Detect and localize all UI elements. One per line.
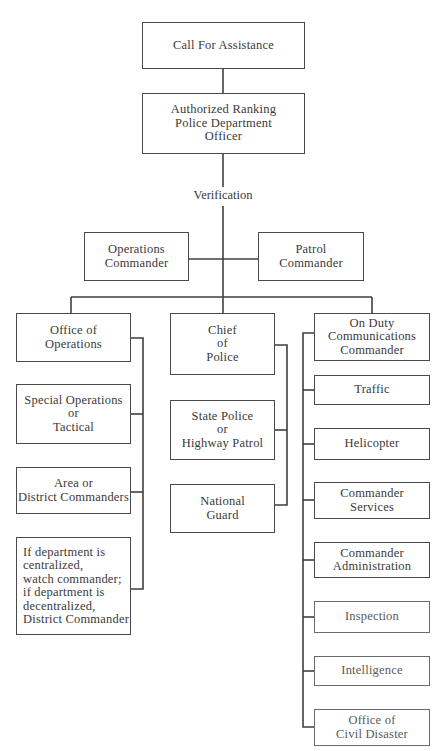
node-label: Patrol Commander — [279, 243, 343, 270]
node-label: Office of Operations — [45, 324, 102, 351]
node-label: Call For Assistance — [173, 39, 274, 53]
node-label: Operations Commander — [105, 243, 169, 270]
node-if-department: If department is centralized, watch comm… — [16, 537, 131, 635]
node-operations-commander: Operations Commander — [84, 232, 189, 281]
node-label: Intelligence — [341, 664, 402, 678]
node-office-of-operations: Office of Operations — [16, 313, 131, 362]
node-state-police: State Police or Highway Patrol — [170, 400, 275, 460]
node-label: Special Operations or Tactical — [24, 394, 122, 435]
node-label: Office of Civil Disaster — [336, 714, 408, 741]
node-label: National Guard — [200, 495, 245, 522]
node-label: Chief of Police — [206, 324, 238, 365]
node-label: Helicopter — [345, 437, 400, 451]
node-commander-administration: Commander Administration — [314, 542, 430, 578]
node-office-of-civil-disaster: Office of Civil Disaster — [314, 709, 430, 746]
node-label: Commander Services — [340, 487, 404, 514]
node-intelligence: Intelligence — [314, 656, 430, 686]
node-label: Authorized Ranking Police Department Off… — [171, 103, 276, 144]
node-chief-of-police: Chief of Police — [170, 313, 275, 375]
node-label: Commander Administration — [333, 547, 412, 574]
node-area-district-commanders: Area or District Commanders — [16, 467, 131, 514]
node-call-for-assistance: Call For Assistance — [142, 22, 305, 69]
node-patrol-commander: Patrol Commander — [258, 232, 364, 281]
node-national-guard: National Guard — [170, 484, 275, 533]
node-label: On Duty Communications Commander — [328, 317, 416, 358]
node-label: Inspection — [345, 610, 399, 624]
node-traffic: Traffic — [314, 375, 430, 405]
node-label: If department is centralized, watch comm… — [23, 546, 129, 627]
node-authorized-officer: Authorized Ranking Police Department Off… — [142, 93, 305, 154]
node-label: Traffic — [354, 383, 389, 397]
node-helicopter: Helicopter — [314, 428, 430, 460]
node-label: Area or District Commanders — [18, 477, 129, 504]
node-label: State Police or Highway Patrol — [182, 410, 264, 451]
node-on-duty-communications-commander: On Duty Communications Commander — [314, 313, 430, 361]
node-inspection: Inspection — [314, 601, 430, 633]
verification-label: Verification — [173, 188, 273, 203]
node-special-operations: Special Operations or Tactical — [16, 384, 131, 444]
node-commander-services: Commander Services — [314, 482, 430, 519]
